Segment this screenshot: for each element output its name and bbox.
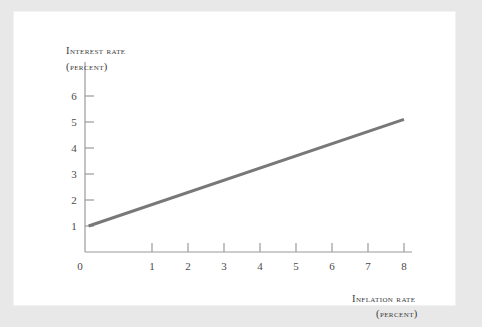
- x-axis-tick-labels: 0 1 2 3 4 5 6 7 8: [77, 260, 407, 272]
- x-tick-label: 3: [221, 260, 227, 272]
- x-tick-label: 6: [329, 260, 335, 272]
- x-axis-title-line1: Inflation rate: [352, 293, 415, 304]
- x-tick-label: 1: [149, 260, 155, 272]
- x-tick-label: 2: [185, 260, 191, 272]
- y-axis-title-line2: (percent): [66, 61, 108, 72]
- y-tick-label: 6: [71, 90, 77, 102]
- y-axis-ticks: [85, 96, 94, 226]
- chart-page: 6 5 4 3 2 1 0 1 2: [0, 0, 482, 327]
- y-tick-label: 5: [71, 116, 77, 128]
- y-axis-tick-labels: 6 5 4 3 2 1: [71, 90, 77, 232]
- x-tick-label: 8: [401, 260, 407, 272]
- x-tick-label: 5: [293, 260, 299, 272]
- x-axis-ticks: [152, 243, 404, 252]
- interest-rate-line: [89, 119, 404, 226]
- y-tick-label: 1: [71, 220, 77, 232]
- x-tick-label: 0: [77, 260, 83, 272]
- y-tick-label: 2: [71, 194, 77, 206]
- chart-panel: 6 5 4 3 2 1 0 1 2: [14, 12, 455, 305]
- x-axis-title-line2: (percent): [376, 308, 418, 319]
- y-tick-label: 3: [71, 168, 77, 180]
- x-tick-label: 7: [365, 260, 371, 272]
- x-tick-label: 4: [257, 260, 263, 272]
- y-tick-label: 4: [71, 142, 77, 154]
- y-axis-title-line1: Interest rate: [66, 45, 126, 56]
